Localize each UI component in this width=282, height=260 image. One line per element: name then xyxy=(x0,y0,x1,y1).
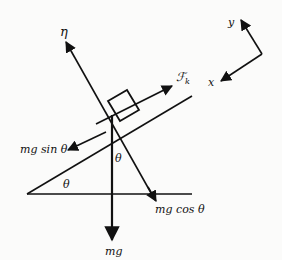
mg-sin-arrow xyxy=(68,132,106,150)
y-axis-arrow xyxy=(241,20,262,54)
block-angle-label: θ xyxy=(115,152,122,165)
friction-force-label: ℱk xyxy=(176,70,190,86)
incline-angle-label: θ xyxy=(63,178,70,191)
weight-parallel-label: mg sin θ xyxy=(20,143,68,156)
axis-y-label: y xyxy=(227,16,235,29)
friction-arrow xyxy=(96,86,172,124)
normal-arrow xyxy=(66,42,155,200)
normal-force-label: η xyxy=(60,24,68,39)
weight-perpendicular-label: mg cos θ xyxy=(155,203,205,216)
free-body-diagram: η ℱk mg sin θ mg cos θ mg θ θ y x xyxy=(0,0,282,260)
weight-label: mg xyxy=(105,245,122,258)
x-axis-arrow xyxy=(221,54,262,81)
axis-x-label: x xyxy=(208,76,215,89)
